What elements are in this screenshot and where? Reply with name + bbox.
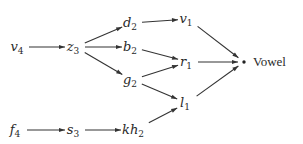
node-subscript: 1 [187, 18, 193, 28]
node-s3: s3 [67, 122, 80, 139]
edge-z3-to-g2 [85, 53, 123, 75]
phoneme-transition-graph: v4z3d2b2g2v1r1l1f4s3kh2 Vowel [0, 0, 303, 144]
vowel-sink: Vowel [242, 54, 286, 69]
vowel-label: Vowel [253, 54, 286, 69]
node-subscript: 1 [184, 102, 190, 112]
node-subscript: 2 [131, 79, 137, 89]
node-g2: g2 [123, 72, 137, 89]
edge-kh2-to-l1 [149, 108, 177, 123]
edge-z3-to-d2 [85, 27, 122, 43]
edges [27, 20, 238, 130]
vowel-dot [242, 60, 245, 63]
node-subscript: 4 [18, 46, 24, 56]
node-kh2: kh2 [122, 122, 144, 139]
node-v1: v1 [179, 11, 192, 28]
node-subscript: 3 [74, 46, 80, 56]
edge-d2-to-v1 [142, 20, 178, 23]
node-subscript: 1 [186, 61, 192, 71]
node-subscript: 2 [131, 22, 137, 32]
node-z3: z3 [66, 39, 80, 56]
node-v4: v4 [10, 39, 23, 56]
edge-v1-to-vowel [198, 26, 239, 57]
edge-g2-to-r1 [142, 65, 178, 77]
edge-b2-to-r1 [142, 50, 178, 60]
node-b2: b2 [123, 39, 137, 56]
edge-l1-to-vowel [197, 66, 239, 96]
node-l1: l1 [180, 95, 190, 112]
node-subscript: 2 [131, 46, 137, 56]
edge-g2-to-l1 [142, 84, 177, 99]
node-subscript: 2 [138, 129, 144, 139]
nodes: v4z3d2b2g2v1r1l1f4s3kh2 [9, 11, 193, 139]
node-d2: d2 [123, 15, 137, 32]
node-subscript: 3 [73, 129, 79, 139]
node-subscript: 4 [15, 129, 21, 139]
node-r1: r1 [180, 54, 192, 71]
node-f4: f4 [9, 122, 21, 139]
